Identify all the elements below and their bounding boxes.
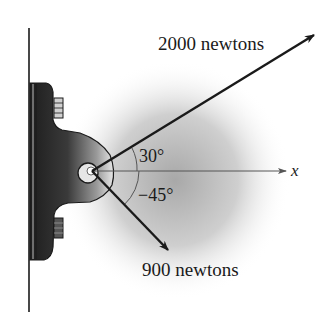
force-label-2000: 2000 newtons	[158, 33, 264, 54]
x-axis-label: x	[290, 161, 299, 180]
force-diagram: x 2000 newtons 900 newtons 30° −45°	[0, 0, 331, 323]
force-label-900: 900 newtons	[142, 259, 239, 280]
angle-label-30: 30°	[139, 146, 164, 166]
angle-label-45: −45°	[138, 185, 173, 205]
